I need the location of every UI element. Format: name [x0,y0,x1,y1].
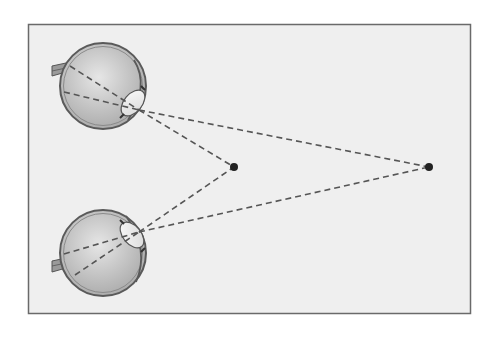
eyeball [60,210,146,296]
binocular-vision-diagram [0,0,494,337]
near-point [230,163,238,171]
eyeball [60,43,146,129]
far-point [425,163,433,171]
